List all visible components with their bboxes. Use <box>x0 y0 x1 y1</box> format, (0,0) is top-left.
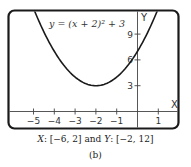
x-tick-label: −2 <box>89 116 102 126</box>
window-range-caption: X: [−6, 2] and Y: [−2, 12] <box>0 134 191 144</box>
range-x-value: : [−6, 2] and <box>44 134 104 144</box>
x-tick-label: 1 <box>155 116 161 126</box>
x-axis-label: X <box>171 99 178 110</box>
x-tick-label: −4 <box>48 116 62 126</box>
x-tick-label: −1 <box>110 116 123 126</box>
x-tick-label: −3 <box>68 116 81 126</box>
y-axis-label: Y <box>140 12 148 23</box>
range-y-value: : [−2, 12] <box>110 134 153 144</box>
y-ticks: 369 <box>127 30 140 92</box>
part-label: (b) <box>0 150 191 160</box>
graph-window: −5−4−3−2−11 369 X Y y = (x + 2)² + 3 <box>0 0 191 132</box>
x-tick-label: −5 <box>27 116 40 126</box>
y-tick-label: 3 <box>127 81 133 91</box>
equation-label: y = (x + 2)² + 3 <box>48 18 125 29</box>
y-tick-label: 9 <box>127 30 133 40</box>
